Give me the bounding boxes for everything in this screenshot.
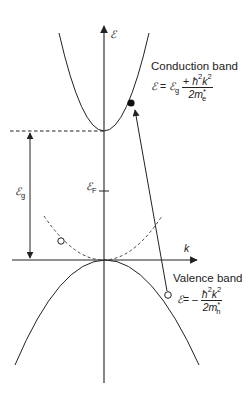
valence-band-curve: [15, 260, 199, 365]
cb-mass-sub: e: [202, 94, 206, 103]
transition-arrow: [135, 110, 167, 291]
vb-equals: =: [183, 293, 189, 305]
bandgap-label: ℰg: [15, 185, 25, 197]
hole-circle-dashed: [58, 238, 64, 244]
k-symbol: k: [184, 242, 189, 254]
gap-subscript: g: [21, 191, 25, 200]
energy-axis-label: ℰ: [110, 28, 116, 40]
vb-fraction: ħ2k2 2m*h: [201, 288, 222, 313]
cb-denominator: 2m*e: [182, 88, 213, 100]
fermi-subscript: F: [92, 186, 97, 195]
cb-energy-symbol: ℰ: [151, 80, 157, 92]
cb-equals: =: [160, 80, 166, 92]
vb-hbar: ħ: [202, 288, 208, 300]
k-axis-label: k: [184, 242, 189, 254]
conduction-band-equation: ℰ = ℰg + ħ2k2 2m*e: [151, 75, 213, 100]
hole-circle-valence: [165, 292, 172, 299]
vb-denominator: 2m*h: [201, 301, 222, 313]
cb-2m: 2m: [188, 88, 203, 100]
vb-mass-sub: h: [216, 307, 220, 316]
valence-band-equation: ℰ= – ħ2k2 2m*h: [177, 288, 222, 313]
energy-symbol: ℰ: [110, 28, 116, 40]
cb-numerator: + ħ2k2: [182, 75, 213, 88]
cb-plus: +: [183, 75, 189, 87]
vb-sup2: 2: [217, 285, 221, 294]
cb-fraction: + ħ2k2 2m*e: [182, 75, 213, 100]
vb-sup1: 2: [208, 285, 212, 294]
cb-sup1: 2: [198, 72, 202, 81]
conduction-band-title: Conduction band: [151, 60, 238, 72]
valence-band-title: Valence band: [173, 272, 242, 284]
cb-sup2: 2: [207, 72, 211, 81]
vb-minus: –: [192, 293, 198, 305]
fermi-level-label: ℰF: [86, 180, 97, 192]
cb-eg-subscript: g: [175, 86, 179, 95]
electron-dot: [127, 99, 134, 106]
